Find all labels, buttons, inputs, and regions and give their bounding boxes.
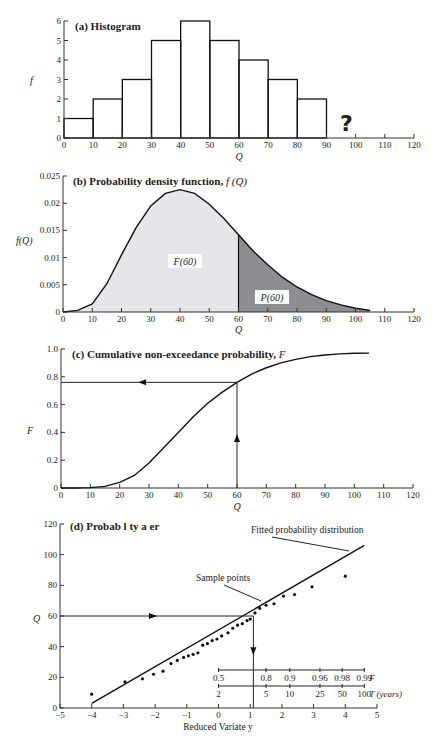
x-tick-label: 60 (234, 314, 244, 324)
x-tick-label: 100 (349, 314, 363, 324)
x-axis-label: Q (233, 501, 241, 512)
sample-point (253, 611, 256, 614)
left-arrow-icon (138, 379, 146, 385)
x-tick-label: 40 (176, 314, 186, 324)
sample-point (264, 604, 267, 607)
sample-point (169, 662, 172, 665)
x-tick-label: 120 (406, 490, 420, 500)
y-tick-label: 120 (44, 519, 58, 529)
y-tick-label: 60 (48, 611, 58, 621)
y-tick-label: 5 (57, 36, 62, 46)
sample-point (123, 680, 126, 683)
x-tick-label: 5 (375, 710, 380, 720)
P60-label: P(60) (260, 292, 284, 304)
sample-point (226, 631, 229, 634)
sample-annotation: Sample points (196, 573, 250, 583)
sample-point (206, 642, 209, 645)
sample-point (245, 619, 248, 622)
sample-point (282, 594, 285, 597)
T-inset-tick-label: 50 (338, 689, 348, 699)
histogram-bar (239, 60, 268, 138)
x-tick-label: −2 (150, 710, 160, 720)
x-tick-label: 30 (146, 314, 156, 324)
question-mark: ? (340, 111, 353, 136)
x-tick-label: 20 (115, 490, 125, 500)
T-inset-axis-label: T (years) (369, 689, 402, 699)
x-tick-label: 50 (205, 140, 215, 150)
y-tick-label: 1.0 (47, 344, 59, 354)
x-tick-label: 90 (321, 490, 331, 500)
sample-point (236, 624, 239, 627)
x-tick-label: −3 (119, 710, 129, 720)
x-tick-label: 2 (280, 710, 285, 720)
cdf-panel: 010203040506070809010011012000.20.40.60.… (26, 344, 420, 512)
y-tick-label: 0.8 (47, 372, 59, 382)
sample-point (231, 627, 234, 630)
sample-point (152, 673, 155, 676)
x-tick-label: 10 (86, 490, 96, 500)
x-tick-label: 0 (61, 314, 66, 324)
y-axis-label: f (30, 75, 34, 86)
x-tick-label: −4 (87, 710, 97, 720)
fitted-annotation: Fitted probability distribution (251, 525, 364, 535)
x-tick-label: 30 (145, 490, 155, 500)
x-tick-label: 70 (263, 314, 273, 324)
sample-point (161, 670, 164, 673)
cdf-curve (61, 353, 369, 488)
T-inset-tick-label: 10 (285, 689, 295, 699)
sample-point (272, 602, 275, 605)
y-tick-label: 0 (57, 133, 62, 143)
figure: 01020304050607080901001101200123456(a) H… (0, 0, 436, 743)
x-tick-label: 110 (377, 490, 391, 500)
sample-point (310, 585, 313, 588)
F-inset-axis-label: F (368, 673, 375, 683)
x-tick-label: 40 (176, 140, 186, 150)
x-tick-label: 120 (407, 140, 421, 150)
y-tick-label: 1 (57, 114, 62, 124)
T-inset-tick-label: 5 (264, 689, 269, 699)
right-arrow-icon (149, 613, 157, 619)
sample-point (220, 634, 223, 637)
F-inset-tick-label: 0.9 (284, 673, 296, 683)
F-inset-tick-label: 0.96 (312, 673, 328, 683)
F-inset-tick-label: 0.98 (334, 673, 350, 683)
y-tick-label: 4 (57, 55, 62, 65)
x-tick-label: 90 (322, 314, 332, 324)
sample-point (192, 653, 195, 656)
sample-point (258, 607, 261, 610)
x-tick-label: 80 (291, 490, 301, 500)
histogram-bar (64, 119, 93, 139)
x-tick-label: 30 (147, 140, 157, 150)
histogram-bar (210, 41, 239, 139)
y-tick-label: 0.01 (44, 253, 60, 263)
x-tick-label: 80 (293, 140, 303, 150)
x-tick-label: 4 (343, 710, 348, 720)
x-tick-label: 20 (118, 140, 128, 150)
sample-point (182, 656, 185, 659)
x-tick-label: 70 (262, 490, 272, 500)
sample-point (201, 644, 204, 647)
x-tick-label: 0 (216, 710, 221, 720)
y-tick-label: 0.025 (40, 171, 61, 181)
x-tick-label: 50 (205, 314, 215, 324)
F60-label: F(60) (173, 256, 197, 268)
x-tick-label: 3 (311, 710, 316, 720)
y-tick-label: 0 (54, 483, 59, 493)
probability-paper-panel: −5−4−3−2−10123450204060801001200.50.80.9… (33, 519, 402, 732)
x-tick-label: 80 (293, 314, 303, 324)
fitted-pointer (272, 537, 349, 551)
y-tick-label: 0.005 (40, 280, 61, 290)
F-inset-tick-label: 0.8 (260, 673, 272, 683)
x-tick-label: 50 (203, 490, 213, 500)
x-tick-label: 0 (62, 140, 67, 150)
x-tick-label: 10 (88, 314, 98, 324)
x-axis-label: Q (235, 151, 243, 162)
x-tick-label: 110 (378, 140, 392, 150)
x-tick-label: 100 (348, 490, 362, 500)
panel-title: (a) Histogram (75, 20, 141, 33)
y-axis-label: Q (33, 613, 41, 624)
y-tick-label: 0 (53, 703, 58, 713)
sample-point (90, 693, 93, 696)
T-inset-tick-label: 25 (315, 689, 325, 699)
sample-point (187, 654, 190, 657)
